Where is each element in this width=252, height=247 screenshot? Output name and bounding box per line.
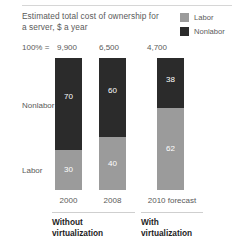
x-tick-2000: 2000: [55, 196, 82, 205]
legend-swatch-nonlabor-icon: [180, 27, 189, 36]
header-divider: [22, 5, 232, 6]
group-divider-with-virtualization: [141, 212, 203, 213]
bar-value-nonlabor-2010-forecast: 38: [166, 76, 175, 84]
totals-row: 100% = 9,900 6,500 4,700: [0, 43, 252, 55]
bar-value-nonlabor-2000: 70: [64, 93, 73, 101]
bar-segment-nonlabor-2008: 60: [99, 58, 126, 137]
bar-segment-labor-2010-forecast: 62: [157, 108, 184, 190]
group-caption-with-virtualization: With virtualization: [141, 217, 211, 239]
bar-segment-labor-2000: 30: [55, 150, 82, 190]
group-caption-without-virtualization: Without virtualization: [52, 217, 132, 239]
group-divider-without-virtualization: [52, 212, 135, 213]
bar-value-labor-2000: 30: [64, 166, 73, 174]
bar-segment-nonlabor-2000: 70: [55, 58, 82, 150]
legend-item-nonlabor: Nonlabor: [180, 27, 244, 36]
stacked-bar-2010-forecast: 38 62: [157, 58, 184, 190]
total-value-2008: 6,500: [99, 43, 119, 52]
chart-title: Estimated total cost of ownership for a …: [22, 11, 162, 33]
percent-basis-label: 100% =: [22, 43, 49, 52]
bar-value-labor-2008: 40: [108, 160, 117, 168]
legend-label-labor: Labor: [194, 13, 213, 22]
plot-area: 70 30 60 40 38 62: [0, 58, 252, 190]
bar-segment-nonlabor-2010-forecast: 38: [157, 58, 184, 108]
x-tick-2008: 2008: [99, 196, 126, 205]
legend-swatch-labor-icon: [180, 13, 189, 22]
legend-label-nonlabor: Nonlabor: [194, 27, 225, 36]
total-value-2010-forecast: 4,700: [147, 43, 167, 52]
bar-value-nonlabor-2008: 60: [108, 87, 117, 95]
legend-item-labor: Labor: [180, 13, 244, 22]
x-axis-labels: 2000 2008 2010 forecast: [0, 196, 252, 208]
bar-value-labor-2010-forecast: 62: [166, 145, 175, 153]
bar-segment-labor-2008: 40: [99, 137, 126, 190]
stacked-bar-2008: 60 40: [99, 58, 126, 190]
total-value-2000: 9,900: [57, 43, 77, 52]
x-tick-2010-forecast: 2010 forecast: [141, 196, 203, 205]
chart-legend: Labor Nonlabor: [180, 13, 244, 41]
stacked-bar-2000: 70 30: [55, 58, 82, 190]
